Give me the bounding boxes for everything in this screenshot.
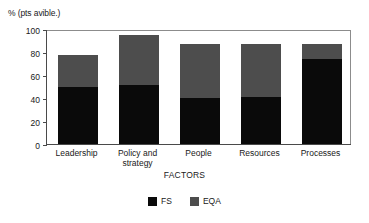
x-axis-title: FACTORS — [0, 170, 369, 180]
y-axis-tick-label: 20 — [31, 118, 40, 128]
x-axis-label: Resources — [229, 148, 290, 158]
y-axis-tick-label: 60 — [31, 72, 40, 82]
bar-segment-eqa[interactable] — [302, 44, 342, 59]
bar-segment-fs[interactable] — [119, 85, 159, 144]
y-axis-tick-label: 80 — [31, 49, 40, 59]
chart-legend: FSEQA — [0, 196, 369, 206]
x-axis-label: Leadership — [46, 148, 107, 158]
y-axis-tick: 80 — [43, 53, 47, 54]
x-axis-label-line: Processes — [290, 148, 351, 158]
plot-area: 020406080100 — [46, 30, 351, 145]
legend-item[interactable]: FS — [148, 196, 172, 206]
x-axis-label: Policy andstrategy — [107, 148, 168, 168]
y-axis-tick: 0 — [43, 145, 47, 146]
y-axis-tick-label: 0 — [35, 141, 40, 151]
y-axis-tick: 40 — [43, 99, 47, 100]
bar-segment-eqa[interactable] — [58, 55, 98, 86]
legend-swatch-icon — [148, 197, 157, 206]
bar-segment-eqa[interactable] — [119, 35, 159, 86]
y-axis-tick-label: 100 — [26, 26, 40, 36]
bars-layer — [47, 30, 351, 144]
legend-label: FS — [161, 196, 172, 206]
y-axis-tick: 60 — [43, 76, 47, 77]
bar-group[interactable] — [58, 29, 98, 144]
bar-group[interactable] — [180, 29, 220, 144]
bar-segment-fs[interactable] — [58, 87, 98, 145]
x-axis-label-line: strategy — [107, 158, 168, 168]
x-axis-label: Processes — [290, 148, 351, 158]
x-axis-label: People — [168, 148, 229, 158]
bar-group[interactable] — [241, 29, 281, 144]
y-axis-tick-label: 40 — [31, 95, 40, 105]
bar-group[interactable] — [119, 29, 159, 144]
y-axis-title: % (pts avible.) — [8, 8, 60, 18]
x-axis-label-line: People — [168, 148, 229, 158]
bar-segment-fs[interactable] — [180, 98, 220, 144]
bar-segment-eqa[interactable] — [180, 44, 220, 98]
x-axis-label-line: Policy and — [107, 148, 168, 158]
bar-segment-eqa[interactable] — [241, 44, 281, 97]
bar-segment-fs[interactable] — [241, 97, 281, 144]
stacked-bar-chart: % (pts avible.) 020406080100 LeadershipP… — [0, 0, 369, 223]
y-axis-tick: 100 — [43, 30, 47, 31]
y-axis-tick: 20 — [43, 122, 47, 123]
x-axis-label-line: Leadership — [46, 148, 107, 158]
x-axis-label-line: Resources — [229, 148, 290, 158]
legend-label: EQA — [203, 196, 221, 206]
legend-swatch-icon — [190, 197, 199, 206]
legend-item[interactable]: EQA — [190, 196, 221, 206]
bar-segment-fs[interactable] — [302, 59, 342, 144]
bar-group[interactable] — [302, 29, 342, 144]
